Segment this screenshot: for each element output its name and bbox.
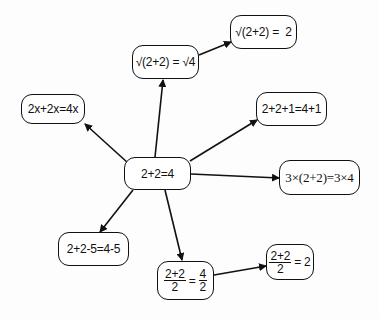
edge-center-to-sqrt4 — [155, 80, 163, 157]
fraction-right: 4 2 — [199, 268, 207, 293]
node-plus-one: 2+2+1=4+1 — [256, 92, 327, 126]
edge-center-to-minus5 — [100, 190, 133, 232]
fraction-denominator: 2 — [171, 281, 179, 293]
node-label: 2x+2x=4x — [28, 102, 78, 116]
edge-sqrt4-to-sqrt2 — [199, 42, 231, 55]
diagram-canvas: 2+2=4 √(2+2) = √4 √(2+2) = 2 2x+2x=4x 2+… — [0, 0, 379, 319]
node-label: 2+2-5=4-5 — [67, 242, 121, 256]
equals-sign: = — [294, 255, 301, 269]
fraction-denominator: 2 — [199, 281, 207, 293]
node-label: √(2+2) = 2 — [235, 25, 291, 39]
edge-frac-to-frac2 — [214, 266, 266, 275]
node-minus-five: 2+2-5=4-5 — [58, 232, 129, 266]
node-label: √(2+2) = √4 — [136, 55, 196, 69]
node-fraction-equals-two: 2+2 2 = 2 — [266, 244, 314, 280]
node-center: 2+2=4 — [124, 157, 191, 190]
result-value: 2 — [304, 255, 310, 269]
node-sqrt-equals-sqrt4: √(2+2) = √4 — [132, 45, 199, 79]
node-label: 2+2+1=4+1 — [262, 102, 322, 116]
node-sqrt-equals-2: √(2+2) = 2 — [230, 15, 297, 49]
edge-center-to-frac — [165, 190, 182, 260]
edge-center-to-times3 — [191, 174, 279, 178]
fraction-left: 2+2 2 — [269, 250, 291, 275]
fraction-denominator: 2 — [276, 263, 284, 275]
node-label: 2+2=4 — [141, 167, 174, 181]
node-label: 3×(2+2)=3×4 — [285, 170, 353, 186]
equals-sign: = — [189, 274, 196, 288]
node-times-three: 3×(2+2)=3×4 — [279, 160, 360, 195]
node-2x-plus-2x: 2x+2x=4x — [21, 94, 85, 124]
node-fraction-equals-fraction: 2+2 2 = 4 2 — [157, 261, 214, 300]
fraction-numerator: 2+2 — [269, 250, 291, 263]
edge-center-to-2x — [85, 124, 128, 163]
edge-center-to-plus1 — [190, 120, 257, 161]
fraction-left: 2+2 2 — [164, 268, 186, 293]
